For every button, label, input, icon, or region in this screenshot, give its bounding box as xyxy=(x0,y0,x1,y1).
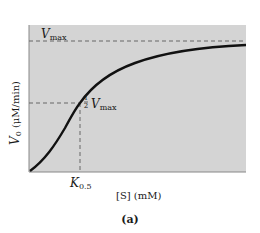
svg-text:1: 1 xyxy=(84,94,88,102)
k05-label: K0.5 xyxy=(69,176,92,191)
x-axis-label: [S] (mM) xyxy=(116,190,161,201)
y-axis-label: V0 (μM/min) xyxy=(8,81,23,145)
panel-label: (a) xyxy=(121,213,139,226)
kinetics-chart: Vmax 1 2 Vmax K0.5 [S] (mM) V0 (μM/min) … xyxy=(0,0,260,233)
svg-text:2: 2 xyxy=(84,102,88,110)
